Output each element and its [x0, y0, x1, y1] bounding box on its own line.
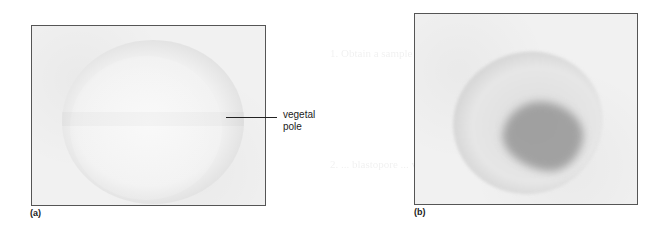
egg-band — [62, 112, 244, 126]
label-line-2: pole — [283, 121, 315, 133]
panel-letter-b: (b) — [414, 207, 426, 217]
label-line-1: vegetal — [283, 109, 315, 121]
panel-letter-a: (a) — [30, 208, 41, 218]
vegetal-pole-label: vegetal pole — [283, 109, 315, 133]
egg-inner-highlight — [70, 56, 222, 200]
figure-panel-b — [414, 13, 638, 205]
vegetal-pole-leader-line — [226, 117, 277, 118]
figure-panel-a — [31, 25, 266, 206]
